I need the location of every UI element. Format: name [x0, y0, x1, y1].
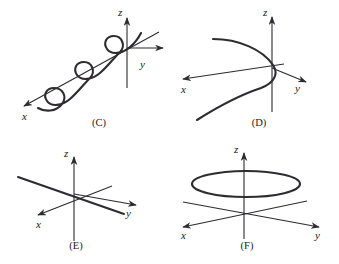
axis-label-z-d: z [262, 6, 268, 18]
axis-label-x-f: x [180, 229, 186, 241]
panel-caption-d: (D) [252, 117, 267, 129]
axis-y-panel-c: y [127, 48, 163, 70]
panel-caption-f: (F) [241, 240, 254, 252]
figure-sheet: z y x (C) [0, 0, 339, 264]
panel-e: z y x (E) [0, 131, 170, 264]
axis-x-panel-d: x [180, 64, 284, 95]
curve-parabola-d [197, 39, 276, 120]
axis-label-z-f: z [233, 143, 239, 155]
axis-label-x-d: x [180, 83, 186, 95]
axis-label-y-d: y [294, 82, 300, 94]
panel-c: z y x (C) [0, 0, 170, 132]
axis-label-y-c: y [139, 58, 145, 70]
panel-caption-c: (C) [92, 117, 107, 129]
axis-z-panel-f: z [233, 143, 244, 239]
curve-helix-c [38, 33, 141, 111]
curve-line-e [18, 177, 124, 214]
axis-label-x-e: x [35, 218, 41, 230]
panel-d: z y x (D) [169, 0, 339, 132]
axis-y-panel-d: y [272, 68, 306, 94]
axis-y-panel-f: y [183, 202, 320, 241]
axis-label-y-f: y [314, 229, 320, 241]
curve-circle-f [192, 171, 300, 197]
axis-label-y-e: y [125, 207, 131, 219]
axis-label-z-c: z [117, 6, 123, 18]
axis-label-x-c: x [21, 110, 27, 122]
panel-caption-e: (E) [69, 240, 83, 252]
panel-f: z y x (F) [169, 131, 339, 264]
axis-label-z-e: z [63, 147, 69, 159]
